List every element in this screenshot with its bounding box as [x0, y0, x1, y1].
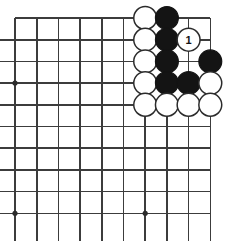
white-stone[interactable]: [199, 93, 222, 116]
white-stone[interactable]: [134, 93, 157, 116]
black-stone[interactable]: [177, 72, 200, 95]
star-point: [12, 81, 17, 86]
white-stone[interactable]: [177, 93, 200, 116]
grid-lines-group: [0, 18, 210, 241]
star-point: [12, 211, 17, 216]
stone-move-number: 1: [186, 34, 192, 46]
white-stone[interactable]: [134, 28, 157, 51]
stones-group: 1: [134, 7, 222, 117]
black-stone[interactable]: [155, 72, 178, 95]
go-board-canvas: 1: [0, 0, 225, 241]
white-stone[interactable]: [155, 93, 178, 116]
black-stone[interactable]: [155, 28, 178, 51]
star-point: [143, 211, 148, 216]
white-stone[interactable]: [199, 72, 222, 95]
white-stone[interactable]: [134, 72, 157, 95]
white-stone[interactable]: [134, 50, 157, 73]
black-stone[interactable]: [199, 50, 222, 73]
black-stone[interactable]: [155, 7, 178, 30]
white-stone[interactable]: [134, 7, 157, 30]
go-board-diagram: 1: [0, 0, 225, 241]
black-stone[interactable]: [155, 50, 178, 73]
